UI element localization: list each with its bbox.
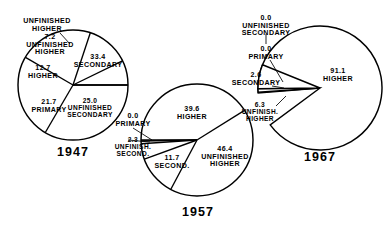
year-label-1967: 1967: [304, 150, 336, 164]
pie-chart-figure: [0, 0, 383, 229]
pie-chart-svg: [0, 0, 383, 229]
pie-chart-1947: [18, 30, 128, 140]
year-label-1957: 1957: [182, 205, 214, 219]
leader-line-unfinished-higher-1967: [276, 96, 286, 106]
year-label-1947: 1947: [57, 145, 89, 159]
pie-chart-1957: [141, 84, 253, 196]
pie-chart-1967: [258, 26, 382, 150]
